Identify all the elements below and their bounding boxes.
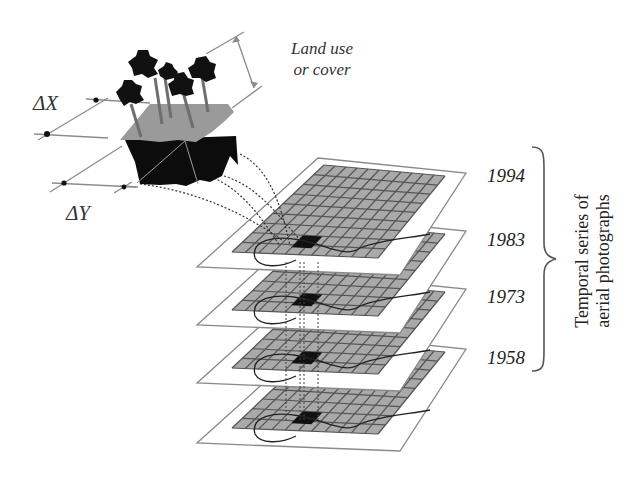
year-label-1983: 1983 — [487, 229, 525, 251]
land-use-label-line2: or cover — [272, 59, 372, 80]
land-use-label: Land use or cover — [272, 38, 372, 80]
curly-brace-icon — [530, 145, 560, 375]
temporal-series-label-line1: Temporal series of — [572, 161, 593, 361]
land-use-label-line1: Land use — [272, 38, 372, 59]
temporal-series-label-line2: aerial photographs — [593, 161, 614, 361]
delta-y-label: ΔY — [66, 201, 90, 226]
year-label-1973: 1973 — [487, 286, 525, 308]
diagram-canvas: Land use or cover ΔX ΔY 1994 1983 1973 1… — [0, 0, 640, 502]
land-cover-block — [116, 50, 238, 186]
delta-x-label: ΔX — [33, 91, 58, 116]
year-label-1958: 1958 — [487, 347, 525, 369]
year-label-1994: 1994 — [487, 165, 525, 187]
temporal-series-label: Temporal series of aerial photographs — [572, 161, 618, 361]
